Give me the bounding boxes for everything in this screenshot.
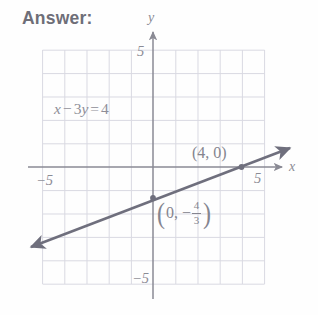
- equation-var-x: x: [54, 100, 61, 117]
- paren-open: (: [157, 201, 165, 224]
- point-label-x-intercept: (4, 0): [192, 145, 227, 161]
- paren-close: ): [203, 201, 211, 224]
- point-comma: ,: [205, 144, 209, 161]
- y-axis-tick-negative-five: −5: [132, 270, 149, 287]
- paren-close: ): [221, 144, 226, 161]
- y-axis-tick-positive-five: 5: [137, 43, 144, 60]
- coordinate-plane: [0, 0, 318, 315]
- fraction-numerator: 4: [194, 200, 200, 212]
- point-comma: ,: [174, 205, 178, 221]
- x-axis-tick-positive-five: 5: [254, 170, 261, 187]
- point-minus-sign: −: [182, 205, 191, 221]
- equation-minus-sign: −: [61, 100, 74, 117]
- y-axis-label: y: [148, 10, 154, 26]
- graph-figure: Answer:: [0, 0, 318, 315]
- fraction-four-thirds: 43: [192, 200, 201, 226]
- equation-equals-sign: =: [88, 100, 101, 117]
- equation-constant: 4: [101, 100, 109, 117]
- point-label-y-intercept: (0, −43): [156, 200, 212, 226]
- x-axis-label: x: [289, 159, 295, 175]
- point-marker-x-intercept: [239, 164, 245, 170]
- equation-label: x−3y=4: [54, 101, 109, 117]
- x-axis-tick-negative-five: −5: [36, 172, 53, 189]
- fraction-denominator: 3: [194, 215, 200, 227]
- point-x-value: 0: [166, 205, 174, 221]
